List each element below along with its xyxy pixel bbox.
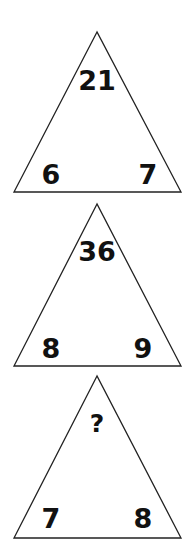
triangle-3: ? 7 8 [14, 376, 181, 538]
triangle-3-right-value: 8 [134, 503, 153, 534]
triangle-3-left-value: 7 [42, 503, 61, 534]
puzzle-canvas: 21 6 7 36 8 9 ? 7 8 [0, 0, 194, 557]
triangle-1-top-value: 21 [78, 65, 116, 96]
triangle-1-left-value: 6 [42, 159, 61, 190]
triangle-outline [14, 376, 181, 538]
triangle-2-right-value: 9 [134, 333, 153, 364]
triangle-2-left-value: 8 [42, 333, 61, 364]
triangle-1: 21 6 7 [14, 32, 181, 192]
triangle-2: 36 8 9 [14, 204, 181, 366]
triangle-3-top-value: ? [90, 409, 105, 438]
triangle-1-right-value: 7 [139, 159, 158, 190]
triangle-2-top-value: 36 [78, 236, 116, 267]
triangle-outline [14, 204, 181, 366]
